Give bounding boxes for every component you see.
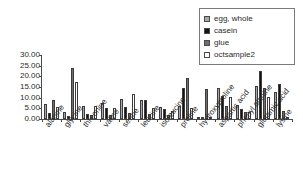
y-axis-tick-mark [39,87,42,88]
x-axis-tick-mark [273,119,274,122]
y-axis-tick-mark [39,108,42,109]
y-axis-tick-label: 25.00 [2,62,40,70]
y-axis-tick-mark [39,98,42,99]
legend-swatch-icon [204,28,210,34]
x-axis-tick-mark [119,119,120,122]
y-axis-tick-label: 10.00 [2,94,40,102]
chart-legend: egg, wholecaseinglueoctsample2 [199,8,295,65]
legend-item-label: glue [214,38,229,47]
legend-item-label: casein [214,26,237,35]
y-axis-tick-mark [39,66,42,67]
x-axis-tick-mark [292,119,293,122]
x-axis-tick-mark [177,119,178,122]
legend-item[interactable]: casein [204,25,290,36]
bar [140,100,143,119]
y-axis-tick-label: 0.00 [2,115,40,123]
legend-swatch-icon [204,40,210,46]
legend-item-label: octsample2 [214,50,255,59]
y-axis-tick-label: 5.00 [2,104,40,112]
legend-item[interactable]: glue [204,37,290,48]
legend-swatch-icon [204,16,210,22]
y-axis-labels: 30.0025.0020.0015.0010.005.000.00 [0,0,40,191]
y-axis-tick-label: 20.00 [2,72,40,80]
y-axis-tick-label: 30.00 [2,51,40,59]
legend-item[interactable]: octsample2 [204,49,290,60]
x-axis-tick-mark [42,119,43,122]
bar-chart: egg, wholecaseinglueoctsample2 30.0025.0… [0,0,303,191]
x-axis-tick-mark [196,119,197,122]
x-axis-tick-mark [254,119,255,122]
legend-swatch-icon [204,52,210,58]
bar [44,104,47,119]
legend-item-label: egg, whole [214,14,253,23]
y-axis-tick-mark [39,55,42,56]
x-axis-tick-mark [100,119,101,122]
y-axis-tick-label: 15.00 [2,83,40,91]
legend-item[interactable]: egg, whole [204,13,290,24]
y-axis-tick-mark [39,76,42,77]
bar [120,99,123,119]
